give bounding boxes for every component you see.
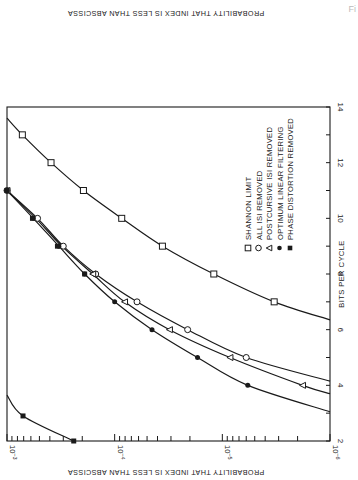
legend: SHANNON LIMITALL ISI REMOVEDPOSTCURSIVE … (244, 118, 295, 251)
open-triangle-marker (300, 382, 306, 388)
filled-square-marker (21, 413, 26, 418)
bleed-through-mark: Fi (349, 4, 357, 14)
svg-text:10−4: 10−4 (116, 445, 126, 460)
open-square-marker (211, 271, 217, 277)
probability-tick-label: 10−4 (116, 445, 126, 460)
open-circle-marker (243, 355, 249, 361)
filled-square-marker (55, 244, 60, 249)
mirrored-ylabel: PROBABILITY THAT INDEX IS LESS THAN ABSC… (68, 9, 265, 18)
filled-square-marker (71, 439, 76, 444)
legend-label: PHASE DISTORTION REMOVED (286, 118, 295, 240)
probability-axis: 10−310−410−510−6 (7, 434, 341, 460)
open-square-marker (19, 132, 25, 138)
curve-phase-distortion-removed (7, 395, 74, 441)
open-triangle-marker (166, 327, 172, 333)
filled-circle-marker (195, 355, 200, 360)
legend-label: SHANNON LIMIT (244, 177, 253, 240)
mirrored-ylabel-text: PROBABILITY THAT INDEX IS LESS THAN ABSC… (68, 9, 265, 18)
filled-circle-marker (112, 299, 117, 304)
legend-label: OPTIMUM LINEAR FILTERING (276, 126, 285, 240)
open-square-marker (271, 299, 277, 305)
open-triangle-marker (266, 245, 272, 251)
bits-axis-title: BITS PER CYCLE (337, 240, 346, 308)
filled-square-marker (82, 272, 87, 277)
open-square-marker (119, 215, 125, 221)
filled-square-marker (30, 216, 35, 221)
open-square-marker (48, 160, 54, 166)
bits-tick-label: 14 (336, 103, 345, 112)
filled-circle-marker (150, 327, 155, 332)
open-square-marker (159, 243, 165, 249)
bits-tick-label: 10 (336, 214, 345, 223)
probability-tick-label: 10−5 (223, 445, 233, 460)
filled-square-marker (5, 188, 10, 193)
open-square-marker (80, 188, 86, 194)
legend-label: ALL ISI REMOVED (255, 170, 264, 240)
open-circle-marker (134, 299, 140, 305)
bits-tick-label: 12 (336, 158, 345, 167)
probability-tick-label: 10−6 (331, 445, 341, 460)
filled-circle-marker (277, 246, 282, 251)
filled-square-marker (288, 246, 293, 251)
svg-text:10−3: 10−3 (8, 445, 18, 460)
open-circle-marker (185, 327, 191, 333)
open-circle-marker (256, 245, 262, 251)
rotated-line-chart: PROBABILITY THAT INDEX IS LESS THAN ABSC… (0, 0, 358, 480)
probability-axis-title: PROBABILITY THAT INDEX IS LESS THAN ABSC… (68, 468, 265, 477)
open-square-marker (245, 245, 251, 251)
open-triangle-marker (227, 355, 233, 361)
svg-text:10−6: 10−6 (331, 445, 341, 460)
bits-tick-label: 6 (336, 327, 345, 332)
bits-tick-label: 2 (336, 439, 345, 444)
svg-text:10−5: 10−5 (223, 445, 233, 460)
filled-circle-marker (245, 383, 250, 388)
bits-tick-label: 4 (336, 383, 345, 388)
probability-tick-label: 10−3 (8, 445, 18, 460)
legend-label: POSTCURSIVE ISI REMOVED (265, 127, 274, 240)
